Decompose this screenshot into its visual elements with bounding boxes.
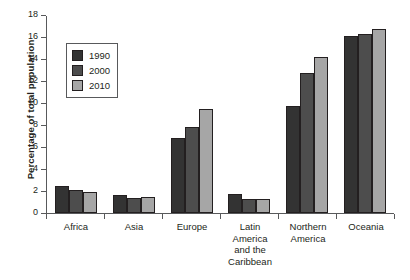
y-axis-tick-label: 8 bbox=[33, 119, 38, 129]
chart-legend: 199020002010 bbox=[66, 43, 118, 98]
legend-swatch-icon bbox=[72, 50, 83, 61]
bar-2010 bbox=[256, 199, 270, 213]
x-axis-category-label: Europe bbox=[163, 221, 221, 267]
category-label-line: Latin bbox=[221, 221, 279, 233]
y-axis-tick: 4 bbox=[41, 169, 46, 170]
bar-group bbox=[278, 16, 336, 213]
y-axis-tick-label: 6 bbox=[33, 141, 38, 151]
legend-item-label: 2010 bbox=[89, 80, 110, 91]
category-label-line: Oceania bbox=[337, 221, 395, 233]
x-axis-category-label: Oceania bbox=[337, 221, 395, 267]
bar-2000 bbox=[300, 73, 314, 213]
category-label-line: Asia bbox=[105, 221, 163, 233]
bar-2010 bbox=[83, 192, 97, 213]
category-label-line: Northern bbox=[279, 221, 337, 233]
x-axis-tick bbox=[220, 214, 221, 219]
y-axis-tick: 14 bbox=[41, 59, 46, 60]
bar-1990 bbox=[228, 194, 242, 213]
x-axis-tick bbox=[278, 214, 279, 219]
bar-2000 bbox=[69, 190, 83, 213]
x-axis-category-label: Africa bbox=[47, 221, 105, 267]
y-axis-tick: 18 bbox=[41, 15, 46, 16]
x-axis-tick bbox=[162, 214, 163, 219]
y-axis-tick-label: 18 bbox=[28, 9, 38, 19]
x-axis-tick bbox=[336, 214, 337, 219]
legend-swatch-icon bbox=[72, 65, 83, 76]
y-axis-tick: 6 bbox=[41, 147, 46, 148]
legend-item-2000[interactable]: 2000 bbox=[72, 63, 110, 78]
bar-2010 bbox=[314, 57, 328, 213]
legend-item-2010[interactable]: 2010 bbox=[72, 78, 110, 93]
y-axis-tick-label: 12 bbox=[28, 75, 38, 85]
y-axis-tick-label: 14 bbox=[28, 53, 38, 63]
bar-1990 bbox=[113, 195, 127, 213]
x-axis-tick bbox=[46, 214, 47, 219]
bar-2000 bbox=[242, 199, 256, 213]
y-axis-tick: 2 bbox=[41, 191, 46, 192]
bar-2010 bbox=[372, 29, 386, 213]
x-axis-tick bbox=[104, 214, 105, 219]
category-label-line: America bbox=[279, 233, 337, 245]
bar-2000 bbox=[127, 198, 141, 213]
category-label-line: America bbox=[221, 233, 279, 245]
y-axis-tick-label: 16 bbox=[28, 31, 38, 41]
bar-2000 bbox=[185, 127, 199, 213]
x-axis-category-labels: AfricaAsiaEuropeLatinAmericaand theCarib… bbox=[47, 221, 395, 267]
bar-2010 bbox=[199, 109, 213, 214]
category-label-line: Africa bbox=[47, 221, 105, 233]
y-axis-tick-label: 0 bbox=[33, 207, 38, 217]
bar-group bbox=[163, 16, 221, 213]
bar-group bbox=[336, 16, 394, 213]
legend-swatch-icon bbox=[72, 80, 83, 91]
bar-2010 bbox=[141, 197, 155, 214]
x-axis-category-label: Asia bbox=[105, 221, 163, 267]
y-axis-tick-label: 2 bbox=[33, 185, 38, 195]
category-label-line: and the bbox=[221, 244, 279, 256]
bar-2000 bbox=[358, 34, 372, 213]
bar-chart: Percentage of total population 024681012… bbox=[0, 0, 410, 280]
category-label-line: Europe bbox=[163, 221, 221, 233]
y-axis-tick-label: 10 bbox=[28, 97, 38, 107]
bar-1990 bbox=[55, 186, 69, 214]
legend-item-label: 2000 bbox=[89, 65, 110, 76]
y-axis-tick-label: 4 bbox=[33, 163, 38, 173]
x-axis-category-label: LatinAmericaand theCaribbean bbox=[221, 221, 279, 267]
legend-item-label: 1990 bbox=[89, 50, 110, 61]
bar-1990 bbox=[344, 36, 358, 213]
x-axis-category-label: NorthernAmerica bbox=[279, 221, 337, 267]
bar-1990 bbox=[286, 106, 300, 213]
y-axis-tick: 10 bbox=[41, 103, 46, 104]
legend-item-1990[interactable]: 1990 bbox=[72, 48, 110, 63]
bar-group bbox=[220, 16, 278, 213]
y-axis-tick: 16 bbox=[41, 37, 46, 38]
x-axis-tick bbox=[394, 214, 395, 219]
y-axis-tick: 8 bbox=[41, 125, 46, 126]
bar-1990 bbox=[171, 138, 185, 213]
category-label-line: Caribbean bbox=[221, 256, 279, 268]
y-axis-tick: 12 bbox=[41, 81, 46, 82]
